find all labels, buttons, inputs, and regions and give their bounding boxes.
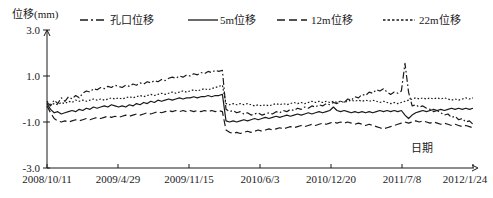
y-axis-ticks: 3.0 1.0 -1.0 -3.0 — [23, 24, 50, 174]
y-tick-label-0: 3.0 — [26, 24, 40, 36]
legend-item-1: 5m位移 — [188, 13, 256, 26]
x-tick-label-4: 2010/12/20 — [306, 173, 357, 185]
x-tick-label-3: 2010/6/3 — [240, 173, 280, 185]
x-axis-ticks: 2008/10/11 2009/4/29 2009/11/15 2010/6/3… — [22, 164, 488, 185]
x-tick-label-5: 2011/7/8 — [383, 173, 422, 185]
displacement-time-chart: 位移(mm) 日期 孔口位移 5m位移 12m位移 22m位移 — [0, 0, 493, 198]
y-tick-label-2: -1.0 — [23, 116, 41, 128]
chart-legend: 孔口位移 5m位移 12m位移 22m位移 — [80, 13, 461, 26]
y-axis-title: 位移(mm) — [12, 7, 59, 21]
x-axis-title: 日期 — [411, 142, 433, 154]
series-line-22m — [47, 85, 473, 106]
series-layer — [47, 63, 473, 133]
y-tick-label-1: 1.0 — [26, 70, 40, 82]
series-line-孔口位移 — [47, 63, 473, 124]
legend-label-0: 孔口位移 — [110, 13, 154, 26]
legend-item-0: 孔口位移 — [80, 13, 154, 26]
x-tick-label-6: 2012/1/24 — [443, 173, 488, 185]
legend-label-1: 5m位移 — [220, 13, 256, 26]
x-tick-label-1: 2009/4/29 — [96, 173, 141, 185]
legend-item-3: 22m位移 — [383, 13, 461, 26]
legend-item-2: 12m位移 — [277, 13, 353, 26]
x-tick-label-0: 2008/10/11 — [22, 173, 72, 185]
legend-label-3: 22m位移 — [419, 13, 461, 26]
chart-canvas: 位移(mm) 日期 孔口位移 5m位移 12m位移 22m位移 — [0, 0, 493, 198]
legend-label-2: 12m位移 — [311, 13, 353, 26]
x-tick-label-2: 2009/11/15 — [164, 173, 214, 185]
